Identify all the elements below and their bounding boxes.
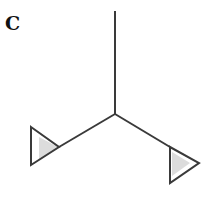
right-cyclopropyl-ring [170,147,199,183]
molecule-diagram [0,0,215,206]
left-cyclopropyl-ring [31,127,59,165]
right-bond [115,114,170,147]
left-bond [59,114,115,147]
